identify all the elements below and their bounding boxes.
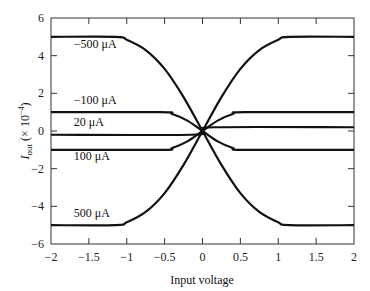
x-tick-label: 1.5 [309, 250, 324, 264]
x-tick-label: −1.5 [78, 250, 100, 264]
curve-label: 100 μA [74, 149, 110, 163]
y-tick-label: −2 [31, 162, 44, 176]
curve-labels: −500 μA−100 μA20 μA100 μA500 μA [74, 37, 117, 220]
chart: −2−1.5−1−0.500.511.52−6−4−20246 −500 μA−… [0, 0, 370, 291]
x-tick-label: 0 [200, 250, 206, 264]
y-tick-label: 2 [38, 86, 44, 100]
curves [51, 37, 354, 226]
y-tick-label: 6 [38, 11, 44, 25]
y-tick-label: 4 [38, 49, 44, 63]
x-tick-label: −1 [120, 250, 133, 264]
y-tick-label: −4 [31, 199, 44, 213]
y-tick-label: −6 [31, 237, 44, 251]
y-axis-title: Iout (× 10−4) [17, 103, 34, 161]
curve-label: −100 μA [74, 93, 117, 107]
curve [51, 37, 354, 226]
y-tick-label: 0 [38, 124, 44, 138]
x-axis-title: Input voltage [170, 273, 234, 287]
curve-label: 500 μA [74, 206, 110, 220]
x-tick-label: −2 [45, 250, 58, 264]
x-tick-label: 1 [275, 250, 281, 264]
curve-label: −500 μA [74, 37, 117, 51]
x-tick-label: 2 [351, 250, 357, 264]
x-tick-label: 0.5 [233, 250, 248, 264]
x-tick-label: −0.5 [154, 250, 176, 264]
svg-text:Iout (× 10−4): Iout (× 10−4) [17, 103, 34, 161]
curve-label: 20 μA [74, 115, 104, 129]
